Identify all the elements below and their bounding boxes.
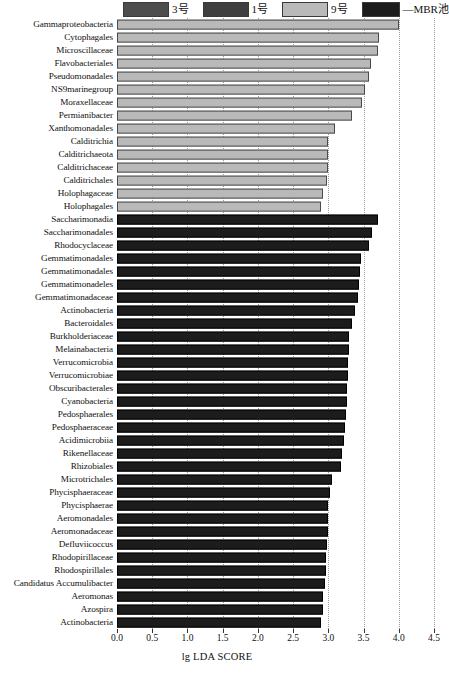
category-label: Bacteroidales — [0, 319, 117, 328]
category-label-row: Aeromonadales — [0, 512, 117, 525]
category-label: Calditrichaeota — [0, 150, 117, 159]
bar-row — [117, 239, 434, 252]
category-label: Saccharimonadia — [0, 215, 117, 224]
bar — [117, 487, 330, 498]
category-label-row: Bacteroidales — [0, 317, 117, 330]
plot-area: GammaproteobacteriaCytophagalesMicroscil… — [0, 18, 434, 629]
bar-row — [117, 525, 434, 538]
bar-row — [117, 109, 434, 122]
axis-tick-label: 2.5 — [287, 633, 299, 643]
category-label-row: Microtrichales — [0, 473, 117, 486]
category-label: Holophagales — [0, 202, 117, 211]
legend-label: 3号 — [172, 4, 189, 15]
bar-row — [117, 57, 434, 70]
axis-tick-label: 3.5 — [358, 633, 370, 643]
category-label-row: Verrucomicrobia — [0, 356, 117, 369]
bar-row — [117, 174, 434, 187]
category-label-row: Calditrichia — [0, 135, 117, 148]
category-label: Defluviicoccus — [0, 540, 117, 549]
category-label-row: NS9marinegroup — [0, 83, 117, 96]
legend-item[interactable]: —MBR池 — [362, 2, 449, 17]
category-label-row: Aeromonadaceae — [0, 525, 117, 538]
legend-item[interactable]: 9号 — [282, 2, 348, 17]
bar — [117, 448, 342, 459]
category-label-row: Actinobacteria — [0, 616, 117, 629]
bar-row — [117, 161, 434, 174]
bar-row — [117, 590, 434, 603]
category-label: Pseudomonadales — [0, 72, 117, 81]
bar-row — [117, 382, 434, 395]
bar-row — [117, 304, 434, 317]
bar-row — [117, 434, 434, 447]
legend-label: 9号 — [331, 4, 348, 15]
bar — [117, 279, 359, 290]
category-label-row: Candidatus Accumulibacter — [0, 577, 117, 590]
category-label-row: Calditrichaeota — [0, 148, 117, 161]
bar — [117, 500, 328, 511]
category-axis-labels: GammaproteobacteriaCytophagalesMicroscil… — [0, 18, 117, 629]
category-label: Saccharimonadales — [0, 228, 117, 237]
category-label-row: Rhodocyclaceae — [0, 239, 117, 252]
bar — [117, 578, 325, 589]
category-label: Permianibacter — [0, 111, 117, 120]
category-label-row: Rhodospirillales — [0, 564, 117, 577]
bar-row — [117, 551, 434, 564]
category-label: Rhizobiales — [0, 462, 117, 471]
category-label: Actinobacteria — [0, 306, 117, 315]
bar — [117, 396, 347, 407]
category-label: Phycisphaeraceae — [0, 488, 117, 497]
category-label: Candidatus Accumulibacter — [0, 579, 117, 588]
bar — [117, 370, 348, 381]
category-label-row: Flavobacteriales — [0, 57, 117, 70]
category-label-row: Microscillaceae — [0, 44, 117, 57]
bar-row — [117, 473, 434, 486]
bar — [117, 604, 323, 615]
bar-row — [117, 395, 434, 408]
category-label-row: Azospira — [0, 603, 117, 616]
bar — [117, 45, 378, 56]
bar — [117, 188, 323, 199]
axis-tick-label: 4.0 — [393, 633, 405, 643]
legend-label: 1号 — [252, 4, 269, 15]
category-label-row: Pedosphaerales — [0, 408, 117, 421]
bar-row — [117, 44, 434, 57]
legend-label: —MBR池 — [403, 4, 449, 15]
bar — [117, 565, 326, 576]
category-label-row: Acidimicrobiia — [0, 434, 117, 447]
bars-container — [117, 18, 434, 629]
category-label: Flavobacteriales — [0, 59, 117, 68]
bar — [117, 331, 349, 342]
chart-legend: 3号1号9号—MBR池 — [0, 0, 434, 18]
axis-tick-label: 1.0 — [182, 633, 194, 643]
category-label-row: Burkholderiaceae — [0, 330, 117, 343]
bar-row — [117, 213, 434, 226]
bar-row — [117, 265, 434, 278]
category-label-row: Gemmatimonadeles — [0, 278, 117, 291]
category-label-row: Gemmatimonadaceae — [0, 291, 117, 304]
bar — [117, 201, 321, 212]
bar — [117, 422, 345, 433]
bar-row — [117, 278, 434, 291]
category-label-row: Phycisphaerae — [0, 499, 117, 512]
category-label: Gemmatimonadales — [0, 267, 117, 276]
bar — [117, 435, 344, 446]
category-label: Phycisphaerae — [0, 501, 117, 510]
category-label: Cyanobacteria — [0, 397, 117, 406]
category-label: Cytophagales — [0, 33, 117, 42]
category-label-row: Cytophagales — [0, 31, 117, 44]
bar-row — [117, 18, 434, 31]
legend-swatch — [123, 2, 169, 17]
bar-row — [117, 603, 434, 616]
category-label-row: Moraxellaceae — [0, 96, 117, 109]
bar-row — [117, 499, 434, 512]
legend-item[interactable]: 3号 — [123, 2, 189, 17]
bar-row — [117, 187, 434, 200]
bar-row — [117, 291, 434, 304]
axis-tick-label: 0.5 — [146, 633, 158, 643]
legend-item[interactable]: 1号 — [203, 2, 269, 17]
axis-tick-label: 0.0 — [111, 633, 123, 643]
bar-row — [117, 317, 434, 330]
bar — [117, 552, 326, 563]
bar-row — [117, 96, 434, 109]
